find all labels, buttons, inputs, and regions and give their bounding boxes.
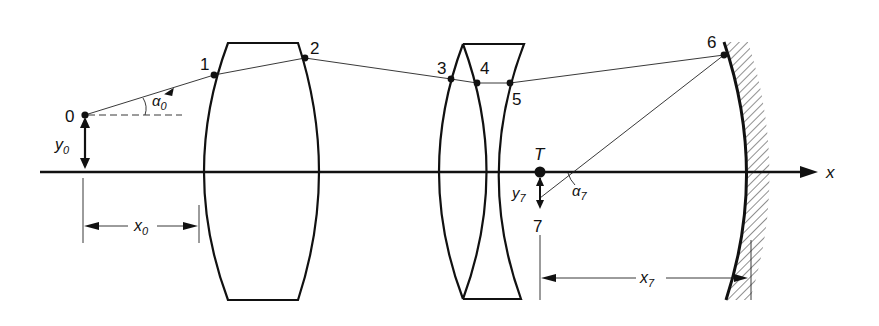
ray-path (85, 55, 724, 198)
point-3-label: 3 (437, 59, 446, 78)
point-4-label: 4 (480, 59, 489, 78)
x0-label: x0 (133, 217, 149, 237)
x0-dimension: x0 (83, 178, 199, 243)
point-1-dot (211, 72, 218, 79)
point-labels: 0 1 2 3 4 5 6 7 T (65, 33, 716, 236)
x7-label: x7 (639, 269, 655, 289)
alpha0-label: α0 (152, 92, 168, 112)
alpha0-arc (143, 98, 146, 115)
target-label: T (534, 145, 546, 164)
y7-dimension: y7 (511, 177, 544, 209)
point-3-dot (448, 76, 455, 83)
optical-axis: x (40, 163, 835, 182)
point-7-label: 7 (533, 217, 542, 236)
axis-arrow-icon (800, 166, 818, 178)
target-point-dot (535, 167, 546, 178)
point-5-dot (507, 80, 514, 87)
point-5-label: 5 (512, 90, 521, 109)
axis-label: x (825, 163, 835, 182)
point-4-dot (474, 80, 481, 87)
point-6-dot (721, 52, 728, 59)
alpha7-label: α7 (572, 182, 588, 202)
point-6-label: 6 (707, 33, 716, 52)
point-1-label: 1 (200, 55, 209, 74)
optical-diagram: x α0 y0 x0 (0, 0, 879, 326)
y0-label: y0 (54, 136, 70, 156)
point-0-dot (81, 111, 88, 118)
x7-dimension: x7 (540, 235, 748, 300)
point-2-dot (302, 55, 309, 62)
point-0-label: 0 (65, 107, 74, 126)
point-2-label: 2 (310, 39, 319, 58)
y7-label: y7 (511, 184, 527, 204)
